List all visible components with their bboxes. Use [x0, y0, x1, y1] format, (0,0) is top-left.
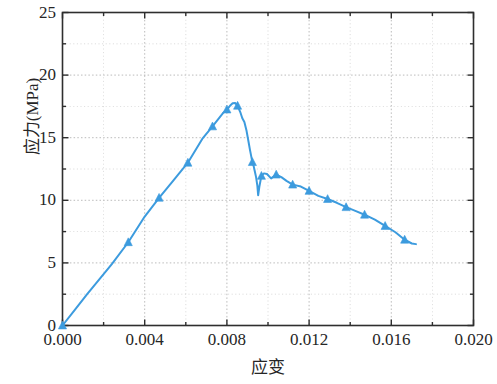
plot-area [0, 0, 497, 384]
grid-lines [63, 13, 474, 326]
stress-strain-chart: 应力(MPa) 应变 0510152025 0.0000.0040.0080.0… [0, 0, 497, 384]
data-series [58, 101, 416, 329]
